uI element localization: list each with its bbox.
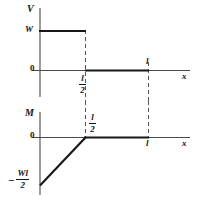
moment-zero-label: 0 [30, 131, 35, 140]
shear-tick-half-span-label: l 2 [79, 74, 86, 95]
moment-diagram-group [32, 101, 190, 195]
moment-min-value-label: − Wl 2 [8, 169, 29, 190]
moment-min-denominator: 2 [21, 181, 26, 190]
shear-half-span-numerator: l [80, 74, 85, 83]
moment-x-axis-label: x [182, 139, 187, 148]
shear-diagram-group [32, 8, 190, 101]
moment-tick-full-span-label: l [146, 139, 149, 148]
shear-tick-full-span-label: l [146, 57, 149, 66]
moment-ramp-segment [40, 138, 86, 186]
shear-value-label-w: W [25, 25, 33, 34]
moment-min-numerator: Wl [18, 169, 29, 178]
minus-sign: − [8, 174, 14, 186]
moment-min-fraction: Wl 2 [16, 169, 29, 190]
moment-half-span-denominator: 2 [89, 125, 96, 134]
shear-half-span-denominator: 2 [79, 86, 86, 95]
shear-zero-label: 0 [30, 64, 35, 73]
shear-y-axis-label: V [27, 4, 34, 14]
figure-container: V W 0 l 2 l x M 0 l 2 l x − Wl 2 [0, 0, 200, 202]
shear-x-axis-label: x [182, 72, 187, 81]
moment-y-axis-label: M [25, 108, 34, 118]
moment-half-span-numerator: l [90, 113, 95, 122]
moment-tick-half-span-label: l 2 [89, 113, 96, 134]
